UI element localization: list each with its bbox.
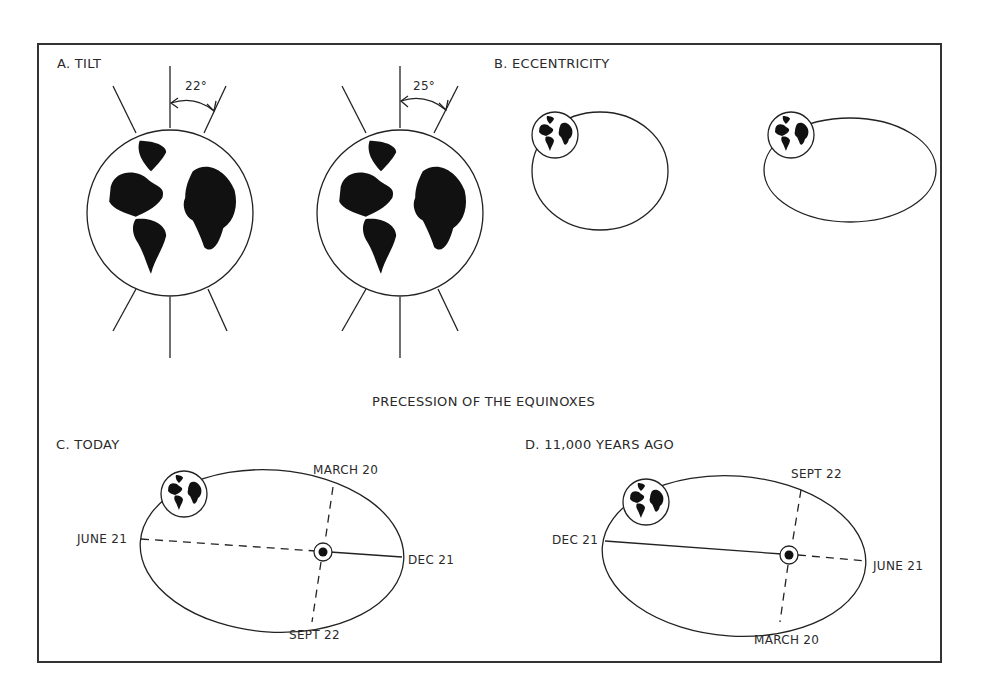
past-top-label: SEPT 22	[791, 467, 842, 481]
orbit-today	[135, 461, 410, 641]
tilt-label: A. TILT	[57, 56, 101, 71]
past-left-label: DEC 21	[552, 533, 598, 547]
today-left-label: JUNE 21	[77, 532, 127, 546]
past-right-label: JUNE 21	[873, 559, 923, 573]
tilt-globe-right	[317, 66, 483, 358]
orbit-high-eccentricity	[764, 112, 936, 222]
precession-title: PRECESSION OF THE EQUINOXES	[372, 394, 595, 409]
today-right-label: DEC 21	[408, 553, 454, 567]
tilt-globe-left	[87, 66, 253, 358]
diagram-canvas	[0, 0, 982, 696]
eccentricity-label: B. ECCENTRICITY	[494, 56, 610, 71]
today-top-label: MARCH 20	[313, 463, 378, 477]
orbit-past	[597, 467, 872, 645]
orbit-low-eccentricity	[532, 112, 668, 230]
today-label: C. TODAY	[56, 437, 120, 452]
tilt-angle-left: 22°	[185, 79, 207, 93]
tilt-angle-right: 25°	[413, 79, 435, 93]
today-bottom-label: SEPT 22	[289, 628, 340, 642]
past-label: D. 11,000 YEARS AGO	[525, 437, 674, 452]
past-bottom-label: MARCH 20	[754, 633, 819, 647]
